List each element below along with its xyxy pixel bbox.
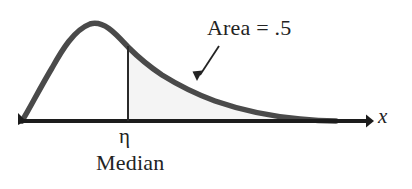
x-axis-arrowhead <box>366 115 374 128</box>
shaded-area-right-of-median <box>128 47 336 121</box>
figure-canvas <box>0 0 412 189</box>
median-word-label: Median <box>96 152 164 174</box>
median-symbol-label: η <box>119 126 130 147</box>
area-annotation-label: Area = .5 <box>207 17 291 39</box>
median-density-figure: Area = .5 η Median x <box>0 0 412 189</box>
area-callout-arrowhead <box>193 71 203 82</box>
area-callout-arrow-shaft <box>200 46 219 75</box>
x-axis-label: x <box>378 106 387 127</box>
